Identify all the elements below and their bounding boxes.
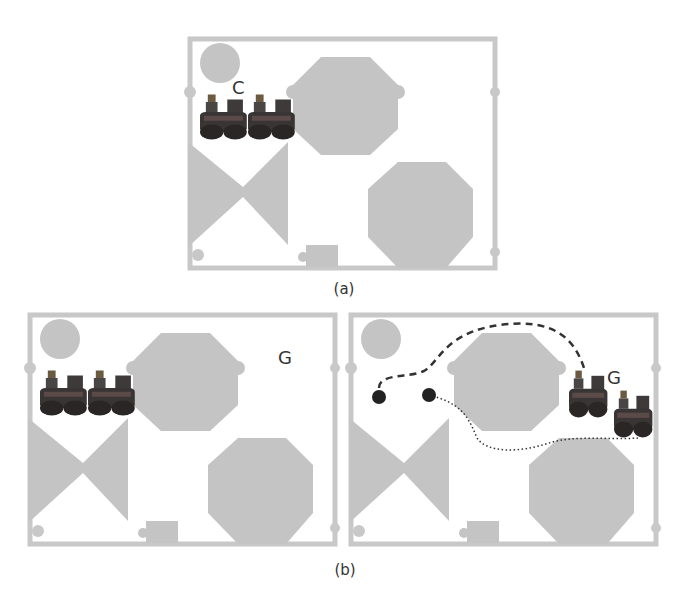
map-panel-a: C (188, 37, 497, 270)
caption-a: (a) (324, 280, 364, 298)
start-dot (372, 390, 386, 404)
config-label: C (232, 77, 245, 98)
robot-icon (248, 95, 295, 140)
map-panel-b-paths: G (349, 313, 658, 546)
goal-label: G (607, 367, 621, 388)
robot-icon (40, 371, 87, 416)
robot-icon (614, 391, 652, 438)
goal-label: G (278, 347, 292, 368)
map-b-right-graphic (349, 313, 658, 546)
map-a-graphic (188, 37, 497, 270)
robot-icon (569, 371, 607, 418)
robot-icon (88, 371, 135, 416)
caption-b: (b) (325, 561, 365, 579)
map-panel-b-start: G (28, 313, 337, 546)
start-dot (422, 388, 436, 402)
robot-icon (200, 95, 247, 140)
